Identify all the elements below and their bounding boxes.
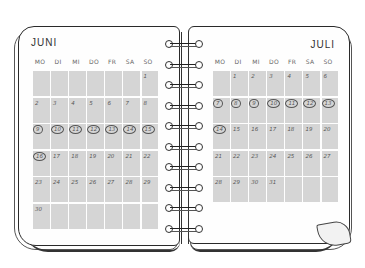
july-day-grid: 1234567891011121314151617181920212223242… [213,71,338,202]
day-cell: 30 [33,204,50,229]
ring-wire [170,84,198,88]
day-cell: 17 [51,151,68,176]
day-number: 11 [285,99,298,108]
day-cell: 24 [51,177,68,202]
day-cell: 18 [69,151,86,176]
day-cell: 9 [249,98,266,123]
day-number: 27 [324,153,331,159]
ring-wire [170,187,198,191]
day-number: 7 [213,99,223,108]
day-number: 21 [215,153,222,159]
ring-hole-right [195,61,203,69]
day-cell: 19 [87,151,104,176]
day-cell: 22 [231,151,248,176]
day-number: 1 [144,73,148,79]
day-cell [303,177,320,202]
ring-wire [170,105,198,109]
day-cell: 9 [33,124,50,149]
day-cell [69,71,86,96]
ring-wire [170,64,198,68]
july-page: JULI MODIMIDOFRSASO 12345678910111213141… [188,26,350,244]
june-page: JUNI MODIMIDOFRSASO 12345678910111213141… [18,26,180,246]
day-cell [87,204,104,229]
day-cell: 1 [231,71,248,96]
day-number: 31 [269,179,276,185]
day-number: 14 [213,125,226,134]
day-number: 24 [269,153,276,159]
day-cell: 23 [249,151,266,176]
spiral-ring [165,122,203,130]
day-number: 9 [249,99,259,108]
ring-hole-right [195,122,203,130]
day-cell: 11 [69,124,86,149]
ring-hole-right [195,143,203,151]
day-number: 15 [233,126,240,132]
day-cell: 7 [213,98,230,123]
day-cell: 1 [142,71,159,96]
ring-wire [170,207,198,211]
day-cell: 5 [303,71,320,96]
day-cell: 28 [123,177,140,202]
ring-hole-right [195,40,203,48]
day-cell: 28 [213,177,230,202]
day-number: 25 [287,153,294,159]
day-cell: 18 [285,124,302,149]
day-number: 29 [233,179,240,185]
day-number: 12 [303,99,316,108]
day-number: 7 [125,100,129,106]
ring-wire [170,43,198,47]
day-cell [33,71,50,96]
spiral-binding [165,40,203,235]
day-cell: 5 [87,98,104,123]
day-number: 27 [107,179,114,185]
weekday-label: SA [121,58,139,65]
day-number: 26 [305,153,312,159]
day-cell: 16 [33,151,50,176]
spiral-ring [165,61,203,69]
day-cell [87,71,104,96]
day-number: 2 [35,100,39,106]
month-title-june: JUNI [31,37,57,48]
day-cell [322,177,339,202]
weekday-label: DO [265,58,283,65]
day-number: 22 [144,153,151,159]
day-number: 24 [53,179,60,185]
day-cell: 21 [213,151,230,176]
month-title-july: JULI [310,39,335,50]
day-cell: 10 [267,98,284,123]
day-cell: 10 [51,124,68,149]
day-cell: 7 [123,98,140,123]
day-cell: 17 [267,124,284,149]
day-cell: 30 [249,177,266,202]
weekday-label: SA [301,58,319,65]
day-number: 6 [107,100,111,106]
weekday-label: SO [139,58,157,65]
day-number: 5 [305,73,309,79]
day-cell: 6 [105,98,122,123]
day-number: 19 [305,126,312,132]
day-cell: 25 [285,151,302,176]
day-number: 20 [324,126,331,132]
day-cell: 15 [231,124,248,149]
day-cell: 13 [322,98,339,123]
day-cell: 29 [142,177,159,202]
day-number: 13 [322,99,335,108]
day-number: 18 [71,153,78,159]
ring-wire [170,146,198,150]
day-number: 3 [53,100,57,106]
day-number: 10 [51,125,64,134]
day-cell: 31 [267,177,284,202]
spiral-ring [165,143,203,151]
day-cell [285,177,302,202]
day-cell: 3 [51,98,68,123]
day-cell [123,71,140,96]
day-cell: 27 [322,151,339,176]
ring-wire [170,228,198,232]
day-cell: 25 [69,177,86,202]
day-number: 17 [269,126,276,132]
spiral-ring [165,163,203,171]
day-cell [123,204,140,229]
day-number: 22 [233,153,240,159]
day-number: 26 [89,179,96,185]
day-number: 30 [35,206,42,212]
